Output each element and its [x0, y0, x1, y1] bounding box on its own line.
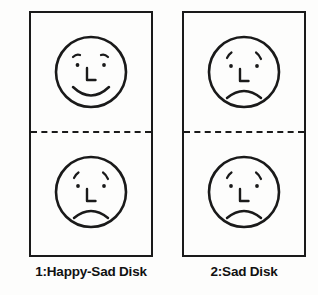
- panel-1-top-face-slot: [31, 13, 151, 131]
- panel-1-caption: 1:Happy-Sad Disk: [29, 264, 153, 279]
- figure-container: 1:Happy-Sad Disk 2:Sad Disk: [0, 0, 318, 295]
- happy-face-icon: [53, 32, 129, 112]
- panel-2-caption: 2:Sad Disk: [182, 264, 306, 279]
- panel-2-bottom-face-slot: [184, 133, 304, 251]
- panel-1-bottom-face-slot: [31, 133, 151, 251]
- sad-face-icon: [206, 152, 282, 232]
- sad-face-icon: [53, 152, 129, 232]
- sad-face-icon: [206, 32, 282, 112]
- panel-happy-sad-disk: [29, 11, 153, 257]
- panel-2-top-face-slot: [184, 13, 304, 131]
- panel-sad-disk: [182, 11, 306, 257]
